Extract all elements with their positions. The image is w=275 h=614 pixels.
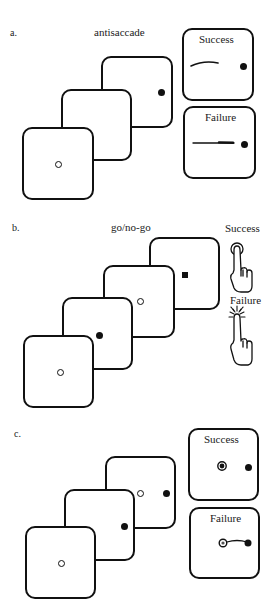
fixation-circle-icon [55, 161, 62, 168]
failure-label: Failure [230, 294, 261, 306]
success-outcome-frame: Success [188, 428, 259, 501]
target-dot-icon [241, 141, 248, 148]
panel-a-title: antisaccade [94, 26, 145, 38]
target-dot-icon [158, 89, 165, 96]
success-label: Success [204, 433, 239, 445]
failure-label: Failure [210, 512, 241, 524]
no-go-square-icon [182, 272, 188, 278]
success-label: Success [199, 33, 234, 45]
trial-frame-1 [22, 127, 94, 200]
failure-label: Failure [205, 111, 236, 123]
target-dot-icon [245, 464, 252, 471]
trial-frame-1 [25, 526, 96, 599]
hollow-circle-icon [137, 298, 144, 305]
hand-pointer-press-burst-icon [229, 306, 252, 365]
fixation-circle-icon [58, 560, 65, 567]
panel-b-letter: b. [12, 222, 20, 234]
panel-c-letter: c. [14, 428, 21, 440]
panel-b-title: go/no-go [111, 221, 151, 233]
success-outcome-frame: Success [182, 28, 254, 101]
target-dot-icon [163, 490, 170, 497]
trial-frame-1 [23, 335, 94, 408]
target-dot-icon [121, 523, 128, 530]
panel-a-letter: a. [10, 27, 17, 39]
target-dot-icon [240, 63, 247, 70]
failure-outcome-frame: Failure [189, 507, 260, 579]
success-label: Success [225, 222, 260, 234]
failure-outcome-frame: Failure [183, 106, 256, 179]
fixation-circle-icon [57, 369, 64, 376]
fixation-circle-icon [137, 490, 144, 497]
go-dot-icon [96, 332, 103, 339]
hand-pointer-hold-icon [231, 243, 252, 292]
